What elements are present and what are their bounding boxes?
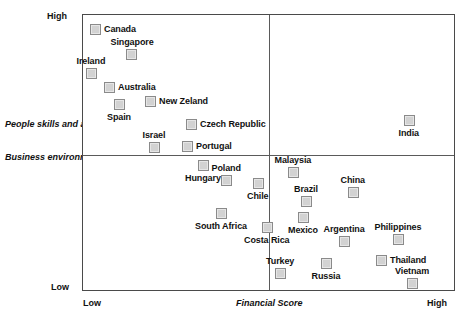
data-point-marker[interactable] [114, 99, 125, 110]
y-axis-title-lower: Business environment [5, 152, 81, 163]
data-point-marker[interactable] [90, 24, 101, 35]
data-point-label: Singapore [111, 37, 154, 47]
data-point-marker[interactable] [262, 222, 273, 233]
data-point-label: Poland [212, 163, 241, 173]
quadrant-divider-horizontal [83, 155, 454, 156]
data-point-marker[interactable] [86, 68, 97, 79]
data-point-label: South Africa [195, 221, 247, 231]
data-point-marker[interactable] [104, 82, 115, 93]
data-point-label: Philippines [375, 222, 422, 232]
y-axis-tick-low: Low [51, 282, 69, 292]
data-point-marker[interactable] [393, 234, 404, 245]
data-point-label: China [341, 175, 366, 185]
data-point-marker[interactable] [182, 141, 193, 152]
data-point-marker[interactable] [321, 258, 332, 269]
data-point-label: Chile [247, 191, 269, 201]
data-point-marker[interactable] [298, 212, 309, 223]
data-point-label: Ireland [77, 56, 106, 66]
x-axis-title: Financial Score [236, 298, 303, 309]
x-axis-tick-low: Low [83, 298, 101, 308]
data-point-label: Malaysia [275, 155, 312, 165]
data-point-marker[interactable] [253, 178, 264, 189]
data-point-marker[interactable] [221, 175, 232, 186]
data-point-marker[interactable] [275, 268, 286, 279]
data-point-label: Canada [104, 24, 136, 34]
data-point-marker[interactable] [376, 255, 387, 266]
y-axis-tick-high: High [47, 11, 67, 21]
data-point-label: Argentina [324, 224, 365, 234]
plot-area: CanadaSingaporeIrelandAustraliaNew Zelan… [82, 14, 455, 291]
data-point-marker[interactable] [348, 187, 359, 198]
data-point-marker[interactable] [145, 96, 156, 107]
data-point-marker[interactable] [301, 196, 312, 207]
data-point-marker[interactable] [407, 278, 418, 289]
data-point-label: Thailand [390, 255, 426, 265]
data-point-label: Vietnam [395, 266, 429, 276]
data-point-marker[interactable] [198, 160, 209, 171]
data-point-label: Spain [107, 112, 131, 122]
data-point-marker[interactable] [216, 208, 227, 219]
data-point-marker[interactable] [126, 49, 137, 60]
data-point-label: Portugal [196, 141, 232, 151]
data-point-label: India [399, 128, 420, 138]
data-point-label: Turkey [266, 256, 294, 266]
data-point-label: Costa Rica [244, 235, 290, 245]
scatter-chart: People skills and availability Business … [0, 0, 474, 321]
data-point-label: Brazil [294, 184, 318, 194]
data-point-label: New Zeland [159, 96, 208, 106]
x-axis-tick-high: High [427, 298, 447, 308]
data-point-label: Mexico [288, 225, 318, 235]
data-point-label: Russia [312, 271, 341, 281]
data-point-marker[interactable] [339, 236, 350, 247]
y-axis-title-upper: People skills and availability [5, 119, 81, 130]
data-point-marker[interactable] [404, 115, 415, 126]
data-point-label: Israel [143, 130, 166, 140]
data-point-marker[interactable] [149, 142, 160, 153]
data-point-marker[interactable] [186, 119, 197, 130]
data-point-marker[interactable] [288, 167, 299, 178]
data-point-label: Czech Republic [200, 119, 266, 129]
data-point-label: Australia [118, 82, 156, 92]
quadrant-divider-vertical [269, 15, 270, 290]
data-point-label: Hungary [185, 173, 221, 183]
